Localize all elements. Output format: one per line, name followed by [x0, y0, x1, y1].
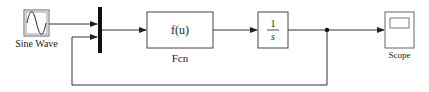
fcn-label: Fcn [172, 52, 189, 64]
integrator-block[interactable]: 1 s [258, 12, 288, 48]
fcn-block[interactable]: f(u) [147, 12, 213, 48]
fcn-expression: f(u) [171, 23, 189, 37]
integrator-denominator: s [271, 31, 275, 42]
block-diagram: Sine Wave f(u) Fcn 1 s Scope [0, 0, 429, 92]
scope-block[interactable] [385, 12, 414, 48]
sine-wave-block[interactable] [24, 10, 49, 36]
scope-screen-icon [390, 18, 409, 28]
scope-label: Scope [389, 50, 411, 60]
mux-block[interactable] [98, 7, 102, 53]
sine-wave-label: Sine Wave [15, 38, 58, 49]
integrator-numerator: 1 [271, 18, 276, 29]
